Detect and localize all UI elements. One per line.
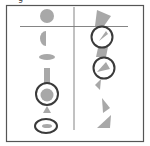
shape-comparison-diagram	[0, 0, 150, 146]
circle-shape-ringed	[41, 89, 54, 102]
half-circle-shape	[40, 31, 46, 46]
wedge-shape	[99, 31, 108, 41]
triangle-shape	[102, 98, 110, 113]
tilted-square-shape	[95, 10, 111, 26]
vertical-bar-shape	[44, 68, 50, 84]
wedge-shape	[97, 62, 110, 72]
frame-border	[7, 6, 144, 142]
triangle-shape	[43, 106, 51, 113]
small-wedge-shape	[95, 79, 101, 90]
triangle-shape	[97, 115, 111, 128]
small-ellipse-shape	[42, 124, 52, 128]
flat-ellipse-shape	[39, 54, 55, 60]
circle-shape	[40, 9, 54, 23]
